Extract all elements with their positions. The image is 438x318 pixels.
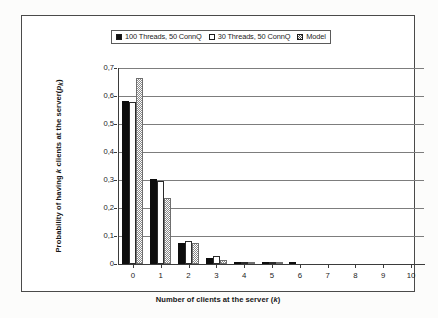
legend-entry-2: Model <box>297 32 326 41</box>
legend-label-2: Model <box>306 32 326 41</box>
bar <box>192 243 199 264</box>
legend-swatch-open-square-icon <box>209 34 215 40</box>
bar-group <box>234 68 255 264</box>
bar <box>276 262 283 264</box>
x-axis-tick-mark <box>272 265 273 268</box>
x-axis-tick-mark <box>300 265 301 268</box>
bar <box>178 243 185 264</box>
bar-group <box>122 68 143 264</box>
x-title-part1: Number of clients at the server ( <box>156 295 274 304</box>
bar <box>269 262 276 264</box>
y-axis-tick-labels: 0,70,60,50,40,30,20,10 <box>86 68 114 264</box>
bar <box>129 102 136 264</box>
y-title-part3: server( <box>54 90 63 116</box>
x-axis-tick-label: 5 <box>261 271 283 280</box>
legend-entry-0: 100 Threads, 50 ConnQ <box>116 32 202 41</box>
bar <box>122 101 129 264</box>
y-axis-tick-label: 0,5 <box>88 119 114 128</box>
legend-entry-1: 30 Threads, 50 ConnQ <box>209 32 291 41</box>
y-axis-tick-mark <box>114 152 117 153</box>
chart-screenshot: 100 Threads, 50 ConnQ 30 Threads, 50 Con… <box>0 0 438 318</box>
x-axis-tick-label: 10 <box>400 271 422 280</box>
y-axis-tick-mark <box>114 264 117 265</box>
bar-group <box>150 68 171 264</box>
x-axis-tick-label: 3 <box>205 271 227 280</box>
x-axis-tick-label: 6 <box>289 271 311 280</box>
bar-group <box>317 68 338 264</box>
x-axis-tick-label: 0 <box>122 271 144 280</box>
y-axis-tick-label: 0 <box>88 259 114 268</box>
y-title-part1: Probability of having <box>54 175 63 252</box>
y-title-part2: clients at the <box>54 119 63 167</box>
x-axis-tick-label: 7 <box>317 271 339 280</box>
legend-swatch-checkered-square-icon <box>297 34 303 40</box>
y-axis-tick-label: 0,7 <box>88 63 114 72</box>
x-axis-tick-label: 2 <box>178 271 200 280</box>
bar-group <box>262 68 283 264</box>
y-title-part4: ) <box>54 79 63 82</box>
bar-group <box>289 68 310 264</box>
x-axis-tick-mark <box>355 265 356 268</box>
y-axis-tick-mark <box>114 180 117 181</box>
bar <box>241 262 248 264</box>
y-axis-tick-mark <box>114 68 117 69</box>
x-axis-tick-mark <box>161 265 162 268</box>
bar-group <box>401 68 422 264</box>
y-axis-tick-label: 0,1 <box>88 231 114 240</box>
legend-label-0: 100 Threads, 50 ConnQ <box>125 32 202 41</box>
chart-frame: 100 Threads, 50 ConnQ 30 Threads, 50 Con… <box>21 15 415 292</box>
x-axis-tick-mark <box>411 265 412 268</box>
bar <box>150 179 157 264</box>
bar <box>220 260 227 264</box>
y-axis-title: Probability of having k clients at the s… <box>50 71 70 261</box>
y-axis-tick-mark <box>114 124 117 125</box>
x-title-part2: ) <box>278 295 281 304</box>
bar <box>164 198 171 264</box>
y-title-k: k <box>54 169 63 173</box>
bar <box>234 262 241 264</box>
y-axis-tick-label: 0,2 <box>88 203 114 212</box>
x-axis-tick-label: 1 <box>150 271 172 280</box>
x-axis-tick-mark <box>189 265 190 268</box>
bar <box>206 258 213 264</box>
bar-group <box>178 68 199 264</box>
y-axis-tick-mark <box>114 208 117 209</box>
bar-group <box>206 68 227 264</box>
bar <box>157 181 164 264</box>
bar-group <box>345 68 366 264</box>
y-axis-tick-label: 0,3 <box>88 175 114 184</box>
y-axis-tick-label: 0,4 <box>88 147 114 156</box>
bar-series-container <box>119 68 425 264</box>
bar <box>262 262 269 264</box>
chart-legend: 100 Threads, 50 ConnQ 30 Threads, 50 Con… <box>111 30 331 44</box>
x-axis-tick-mark <box>244 265 245 268</box>
x-axis-tick-label: 4 <box>233 271 255 280</box>
bar <box>185 241 192 264</box>
x-axis-tick-mark <box>383 265 384 268</box>
legend-swatch-filled-square-icon <box>116 34 122 40</box>
x-axis-title: Number of clients at the server (k) <box>22 295 414 304</box>
bar-group <box>373 68 394 264</box>
x-axis-tick-label: 8 <box>344 271 366 280</box>
x-axis-tick-mark <box>328 265 329 268</box>
y-title-p: p <box>54 86 63 91</box>
x-axis-tick-label: 9 <box>372 271 394 280</box>
x-axis-tick-mark <box>216 265 217 268</box>
bar <box>213 256 220 264</box>
y-axis-tick-label: 0,6 <box>88 91 114 100</box>
bar <box>248 262 255 264</box>
y-title-sub: k <box>58 82 65 86</box>
y-axis-tick-mark <box>114 236 117 237</box>
x-axis-tick-mark <box>133 265 134 268</box>
legend-label-1: 30 Threads, 50 ConnQ <box>218 32 291 41</box>
bar <box>136 78 143 264</box>
bar <box>289 262 296 264</box>
y-axis-tick-mark <box>114 96 117 97</box>
